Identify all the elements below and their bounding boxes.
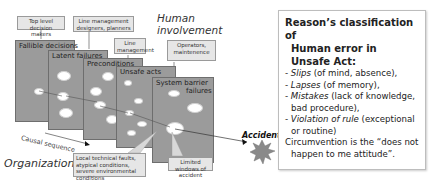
label-top-level-decision-makers: Top level decision makers — [17, 16, 65, 30]
label-line-management: Line management — [114, 38, 146, 54]
term: Violation of rule — [291, 114, 359, 124]
circumvention-line2: happen to me attitude”. — [285, 149, 419, 161]
desc-cont: or routine) — [285, 126, 419, 138]
item-slips: - Slips (of mind, absence), — [285, 68, 419, 80]
desc: (lack of knowledge, — [329, 91, 416, 101]
info-title: Reason’s classification of Human error i… — [285, 16, 419, 68]
accident-burst-icon — [250, 140, 275, 164]
item-lapses: - Lapses (of memory), — [285, 80, 419, 92]
circumvention-line1: Circumvention is the “does not — [285, 137, 418, 147]
label-operators-maintenance: Operators, maintenence — [167, 40, 216, 61]
term: Mistakes — [291, 91, 329, 101]
human-involvement-heading: Human involvement — [157, 12, 222, 36]
term: Slips — [291, 68, 311, 78]
label-line-mgmt-designers: Line management designers, planners — [73, 16, 134, 32]
organization-label: Organization — [4, 158, 75, 170]
desc: (exceptional — [359, 114, 415, 124]
info-title-line1: Reason’s classification of — [285, 17, 413, 41]
human-involvement-line2: involvement — [157, 24, 222, 36]
accident-label: Accident — [242, 131, 281, 140]
desc: (of mind, absence), — [311, 68, 397, 78]
item-violation: - Violation of rule (exceptionalor routi… — [285, 114, 419, 137]
desc-cont: bad procedure), — [285, 103, 419, 115]
term: Lapses — [291, 80, 321, 90]
reason-classification-box: Reason’s classification of Human error i… — [278, 10, 426, 170]
desc: (of memory), — [321, 80, 380, 90]
label-limited-windows: Limited windows of accident — [168, 157, 213, 171]
circumvention-note: Circumvention is the “does not happen to… — [285, 137, 419, 160]
label-local-technical-faults: Local technical faults, atypical conditi… — [73, 153, 146, 177]
info-title-line2: Human error in Unsafe Act: — [285, 42, 419, 68]
item-mistakes: - Mistakes (lack of knowledge,bad proced… — [285, 91, 419, 114]
human-involvement-line1: Human — [157, 12, 195, 24]
